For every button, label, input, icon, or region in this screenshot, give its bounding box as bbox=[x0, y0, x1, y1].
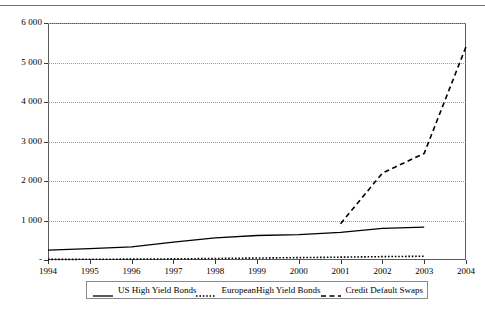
x-axis-tick-label: 2004 bbox=[446, 266, 485, 276]
y-axis-tick-label: 5 000 bbox=[0, 58, 42, 67]
x-axis-tick bbox=[48, 260, 49, 264]
series-line bbox=[48, 227, 424, 250]
x-axis-tick bbox=[173, 260, 174, 264]
chart-legend: US High Yield BondsEuropeanHigh Yield Bo… bbox=[86, 281, 428, 299]
y-axis-tick-label: 6 000 bbox=[0, 18, 42, 27]
series-layer bbox=[48, 23, 466, 260]
series-line bbox=[48, 256, 424, 259]
x-axis-tick-label: 1994 bbox=[28, 266, 68, 276]
x-axis-tick bbox=[132, 260, 133, 264]
x-axis-tick bbox=[466, 260, 467, 264]
legend-label: Credit Default Swaps bbox=[346, 285, 423, 295]
chart-figure: 6 0005 0004 0003 0002 0001 000- 19941995… bbox=[0, 0, 485, 311]
x-axis-tick bbox=[257, 260, 258, 264]
x-axis-tick bbox=[382, 260, 383, 264]
x-axis-tick-label: 2002 bbox=[362, 266, 402, 276]
legend-line-swatch bbox=[321, 286, 341, 294]
legend-entry[interactable]: US High Yield Bonds bbox=[93, 285, 196, 295]
x-axis-tick-label: 1995 bbox=[70, 266, 110, 276]
legend-label: US High Yield Bonds bbox=[118, 285, 196, 295]
legend-entry[interactable]: Credit Default Swaps bbox=[321, 285, 423, 295]
x-axis-tick bbox=[424, 260, 425, 264]
y-axis-tick-label: 4 000 bbox=[0, 97, 42, 106]
legend-entry[interactable]: EuropeanHigh Yield Bonds bbox=[196, 285, 320, 295]
legend-line-swatch bbox=[196, 286, 216, 294]
series-line bbox=[341, 47, 466, 224]
y-axis-tick-label: - bbox=[0, 255, 42, 264]
x-axis-tick-label: 1999 bbox=[237, 266, 277, 276]
legend-label: EuropeanHigh Yield Bonds bbox=[221, 285, 320, 295]
x-axis-tick-label: 1997 bbox=[153, 266, 193, 276]
x-axis-tick-label: 1998 bbox=[195, 266, 235, 276]
x-axis-tick bbox=[215, 260, 216, 264]
y-axis-tick-label: 3 000 bbox=[0, 137, 42, 146]
x-axis-tick-label: 2003 bbox=[404, 266, 444, 276]
x-axis-tick-label: 2000 bbox=[279, 266, 319, 276]
legend-line-swatch bbox=[93, 286, 113, 294]
x-axis-tick bbox=[341, 260, 342, 264]
x-axis-tick-label: 2001 bbox=[321, 266, 361, 276]
x-axis-tick bbox=[90, 260, 91, 264]
top-divider-rule bbox=[0, 5, 485, 6]
y-axis-tick-label: 1 000 bbox=[0, 216, 42, 225]
x-axis-tick bbox=[299, 260, 300, 264]
y-axis-tick-label: 2 000 bbox=[0, 176, 42, 185]
x-axis-tick-label: 1996 bbox=[112, 266, 152, 276]
